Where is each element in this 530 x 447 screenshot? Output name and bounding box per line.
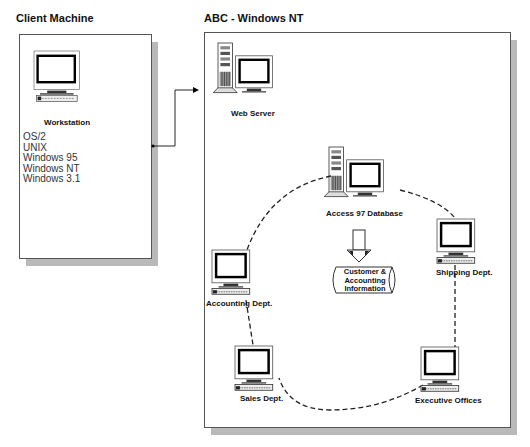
workstation-label: Workstation xyxy=(44,118,90,127)
accounting-label: Accounting Dept. xyxy=(206,299,272,308)
accounting-workstation-icon xyxy=(212,250,250,294)
database-label: Access 97 Database xyxy=(326,209,403,218)
os-item: Windows 3.1 xyxy=(23,174,80,185)
diagram-graphics xyxy=(0,0,530,447)
executive-label: Executive Offices xyxy=(415,396,482,405)
os-item: Windows 95 xyxy=(23,153,80,164)
shipping-workstation-icon xyxy=(437,219,475,263)
workstation-icon xyxy=(34,51,80,101)
shipping-label: Shipping Dept. xyxy=(436,268,492,277)
sales-workstation-icon xyxy=(235,346,273,390)
web-server-label: Web Server xyxy=(231,109,275,118)
down-arrow-icon xyxy=(347,230,371,262)
database-server-icon xyxy=(324,147,383,197)
info-store-label: Customer & Accounting Information xyxy=(338,268,392,294)
executive-workstation-icon xyxy=(421,347,459,391)
web-server-icon xyxy=(213,43,272,93)
sales-label: Sales Dept. xyxy=(240,394,283,403)
os-list: OS/2 UNIX Windows 95 Windows NT Windows … xyxy=(23,132,80,185)
info-line: Information xyxy=(338,285,392,294)
os-item: OS/2 xyxy=(23,132,80,143)
